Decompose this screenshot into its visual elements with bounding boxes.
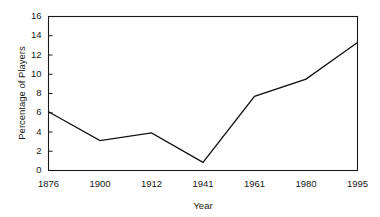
- x-axis-tick-label: 1961: [244, 178, 265, 189]
- x-axis-tick-labels: 1876190019121941196119801995: [38, 178, 368, 189]
- y-axis-tick-label: 14: [31, 29, 42, 40]
- chart-canvas: 0246810121416 18761900191219411961198019…: [0, 0, 380, 217]
- data-series-line: [49, 42, 358, 162]
- x-axis-tick-label: 1912: [141, 178, 162, 189]
- y-axis-tick-label: 2: [36, 145, 41, 156]
- y-axis-tick-label: 4: [36, 126, 41, 137]
- y-axis-tick-label: 8: [36, 87, 41, 98]
- y-axis-tick-label: 0: [36, 164, 41, 175]
- y-axis-tick-labels: 0246810121416: [31, 10, 42, 175]
- x-axis-tick-label: 1995: [347, 178, 368, 189]
- y-axis-tick-label: 12: [31, 49, 42, 60]
- y-axis-tick-label: 16: [31, 10, 42, 21]
- x-axis-title: Year: [193, 200, 212, 211]
- x-axis-tick-label: 1980: [295, 178, 316, 189]
- line-chart: 0246810121416 18761900191219411961198019…: [0, 0, 380, 217]
- x-axis-tick-label: 1900: [89, 178, 110, 189]
- y-axis-ticks: [49, 17, 53, 171]
- y-axis-tick-label: 10: [31, 68, 42, 79]
- y-axis-title: Percentage of Players: [16, 46, 27, 140]
- x-axis-tick-label: 1941: [192, 178, 213, 189]
- y-axis-tick-label: 6: [36, 106, 41, 117]
- plot-frame: [49, 17, 358, 171]
- x-axis-tick-label: 1876: [38, 178, 59, 189]
